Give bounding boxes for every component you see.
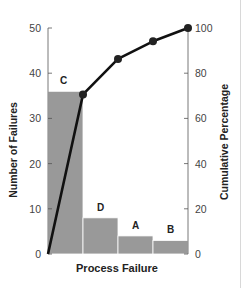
y2-tick-label: 0 [195, 248, 201, 260]
y-tick-label: 30 [29, 112, 41, 124]
bar-label-a: A [132, 220, 139, 231]
cumulative-point-c [79, 90, 87, 98]
cumulative-point-a [149, 37, 157, 45]
y2-axis-label: Cumulative Percentage [218, 84, 230, 200]
bar-d [83, 218, 118, 254]
pareto-chart: CDAB 01020304050020406080100 Process Fai… [0, 0, 242, 288]
y-tick-label: 0 [35, 248, 41, 260]
y-tick-label: 10 [29, 203, 41, 215]
page-edge-divider [240, 0, 241, 288]
y-tick-label: 40 [29, 67, 41, 79]
bar-label-b: B [167, 224, 174, 235]
y-tick-label: 20 [29, 158, 41, 170]
bar-label-d: D [97, 202, 104, 213]
bar-a [118, 236, 153, 254]
y2-tick-label: 60 [195, 112, 207, 124]
y-tick-label: 50 [29, 22, 41, 34]
y2-tick-label: 20 [195, 203, 207, 215]
y2-tick-label: 100 [195, 22, 213, 34]
cumulative-point-b [184, 24, 192, 32]
x-axis-label: Process Failure [76, 262, 158, 274]
y-axis-label: Number of Failures [7, 102, 19, 198]
cumulative-point-d [114, 55, 122, 63]
bar-label-c: C [60, 75, 67, 86]
y2-tick-label: 80 [195, 67, 207, 79]
y2-tick-label: 40 [195, 158, 207, 170]
bar-b [153, 240, 188, 254]
